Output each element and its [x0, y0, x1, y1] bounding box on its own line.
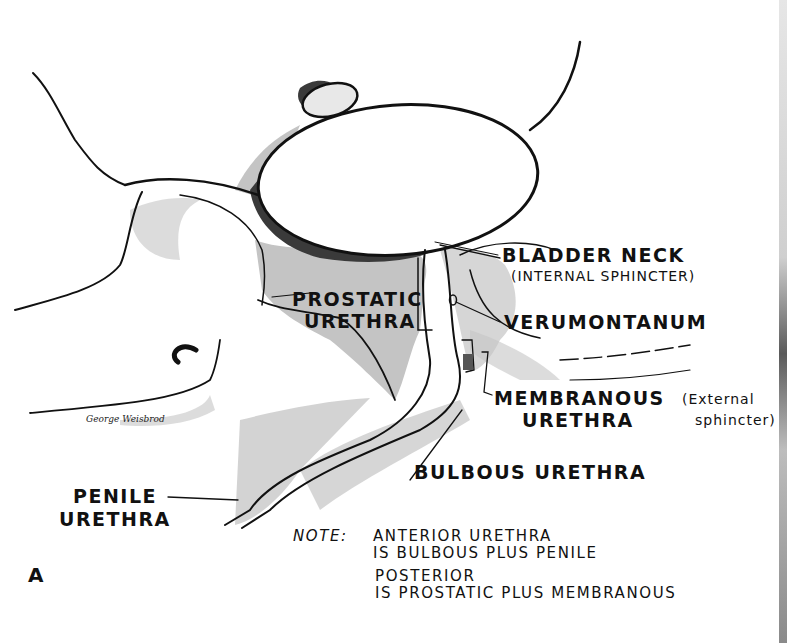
note-line-1: ANTERIOR URETHRA: [373, 528, 552, 545]
panel-label: A: [28, 563, 43, 587]
label-prostatic: PROSTATIC: [292, 290, 423, 310]
label-bladder-neck: BLADDER NECK: [502, 246, 685, 266]
label-penile-urethra: URETHRA: [59, 510, 171, 530]
label-prostatic-urethra: URETHRA: [304, 312, 416, 332]
label-membranous: MEMBRANOUS: [494, 389, 665, 409]
label-verumontanum: VERUMONTANUM: [504, 313, 707, 333]
label-membranous-urethra: URETHRA: [522, 411, 634, 431]
label-penile: PENILE: [73, 487, 157, 507]
label-internal-sphincter: (INTERNAL SPHINCTER): [511, 269, 695, 284]
urethra-anatomy-diagram: BLADDER NECK (INTERNAL SPHINCTER) PROSTA…: [0, 0, 787, 643]
sphincter-mark: [463, 354, 473, 370]
note-line-3: POSTERIOR: [375, 568, 476, 585]
label-bulbous-urethra: BULBOUS URETHRA: [414, 463, 646, 483]
note-line-2: IS BULBOUS PLUS PENILE: [373, 545, 598, 562]
scan-edge: [779, 0, 787, 643]
artist-signature: George Weisbrod: [86, 414, 165, 424]
label-external: (External: [682, 392, 755, 407]
label-sphincter: sphincter): [695, 413, 776, 428]
note-heading: NOTE:: [293, 528, 348, 545]
note-line-4: IS PROSTATIC PLUS MEMBRANOUS: [375, 585, 676, 602]
